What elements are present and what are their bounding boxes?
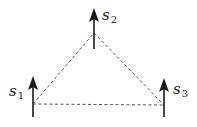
spin-triangle-diagram (0, 0, 197, 127)
label-symbol: s (173, 80, 181, 98)
edge-s1-s2 (33, 33, 94, 104)
node-label-s3: s3 (173, 82, 188, 99)
label-subscript: 1 (18, 90, 24, 101)
label-subscript: 3 (182, 88, 188, 99)
node-label-s1: s1 (9, 84, 24, 101)
arrow-up-icon-s1 (28, 76, 38, 117)
node-label-s2: s2 (102, 8, 117, 25)
arrow-up-icon-s3 (159, 78, 169, 117)
label-subscript: 2 (111, 14, 117, 25)
label-symbol: s (102, 6, 110, 24)
edge-s1-s3 (33, 104, 164, 105)
label-symbol: s (9, 82, 17, 100)
arrow-up-icon-s2 (89, 8, 99, 49)
edge-s2-s3 (94, 33, 164, 105)
